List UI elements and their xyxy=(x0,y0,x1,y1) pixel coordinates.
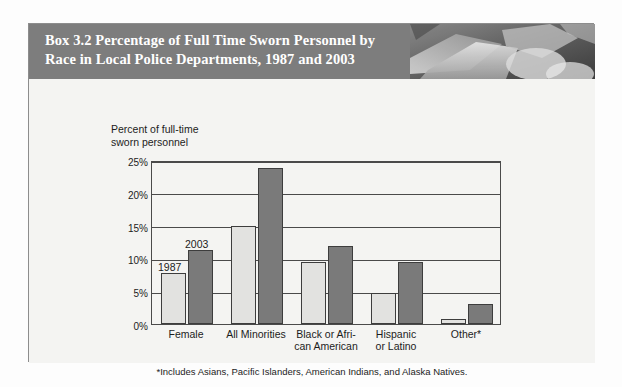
series-annotation-2003: 2003 xyxy=(185,238,208,250)
header-photo xyxy=(410,24,595,79)
x-axis-label-all-minorities: All Minorities xyxy=(221,328,291,340)
bar-1987-black-or-afri-can-american xyxy=(301,262,326,324)
x-axis-label-hispanicor-latino: Hispanic or Latino xyxy=(361,328,431,352)
y-tick-label: 10% xyxy=(128,255,148,266)
bar-2003-hispanicor-latino xyxy=(398,262,423,324)
page-root: Box 3.2 Percentage of Full Time Sworn Pe… xyxy=(0,0,622,387)
y-tick-label: 20% xyxy=(128,189,148,200)
gridline xyxy=(152,227,500,228)
y-tick-label: 15% xyxy=(128,222,148,233)
chart-footnote: *Includes Asians, Pacific Islanders, Ame… xyxy=(29,366,595,377)
y-tick-label: 25% xyxy=(128,157,148,168)
bar-2003-other xyxy=(468,304,493,324)
bar-2003-black-or-afri-can-american xyxy=(328,246,353,324)
header-band: Box 3.2 Percentage of Full Time Sworn Pe… xyxy=(29,24,595,79)
bar-1987-all-minorities xyxy=(231,226,256,324)
bar-2003-all-minorities xyxy=(258,168,283,324)
y-axis-title: Percent of full-time sworn personnel xyxy=(111,123,199,149)
gridline xyxy=(152,162,500,163)
plot-area: 0%5%10%15%20%25%19872003 xyxy=(151,161,501,325)
bar-1987-hispanicor-latino xyxy=(371,293,396,324)
y-tick-label: 5% xyxy=(134,288,148,299)
page-title: Box 3.2 Percentage of Full Time Sworn Pe… xyxy=(45,31,395,69)
series-annotation-1987: 1987 xyxy=(158,261,181,273)
x-axis-label-other: Other* xyxy=(431,328,501,340)
chart-panel: Percent of full-time sworn personnel 0%5… xyxy=(29,79,595,363)
x-axis-label-black-or-afri-can-american: Black or Afri- can American xyxy=(291,328,361,352)
bar-1987-female xyxy=(161,273,186,324)
gridline xyxy=(152,194,500,195)
bar-1987-other xyxy=(441,319,466,324)
x-axis-label-female: Female xyxy=(151,328,221,340)
y-tick-label: 0% xyxy=(134,321,148,332)
box-frame: Box 3.2 Percentage of Full Time Sworn Pe… xyxy=(28,23,594,362)
bar-2003-female xyxy=(188,250,213,324)
photo-hands-documents-graphic xyxy=(410,24,595,79)
